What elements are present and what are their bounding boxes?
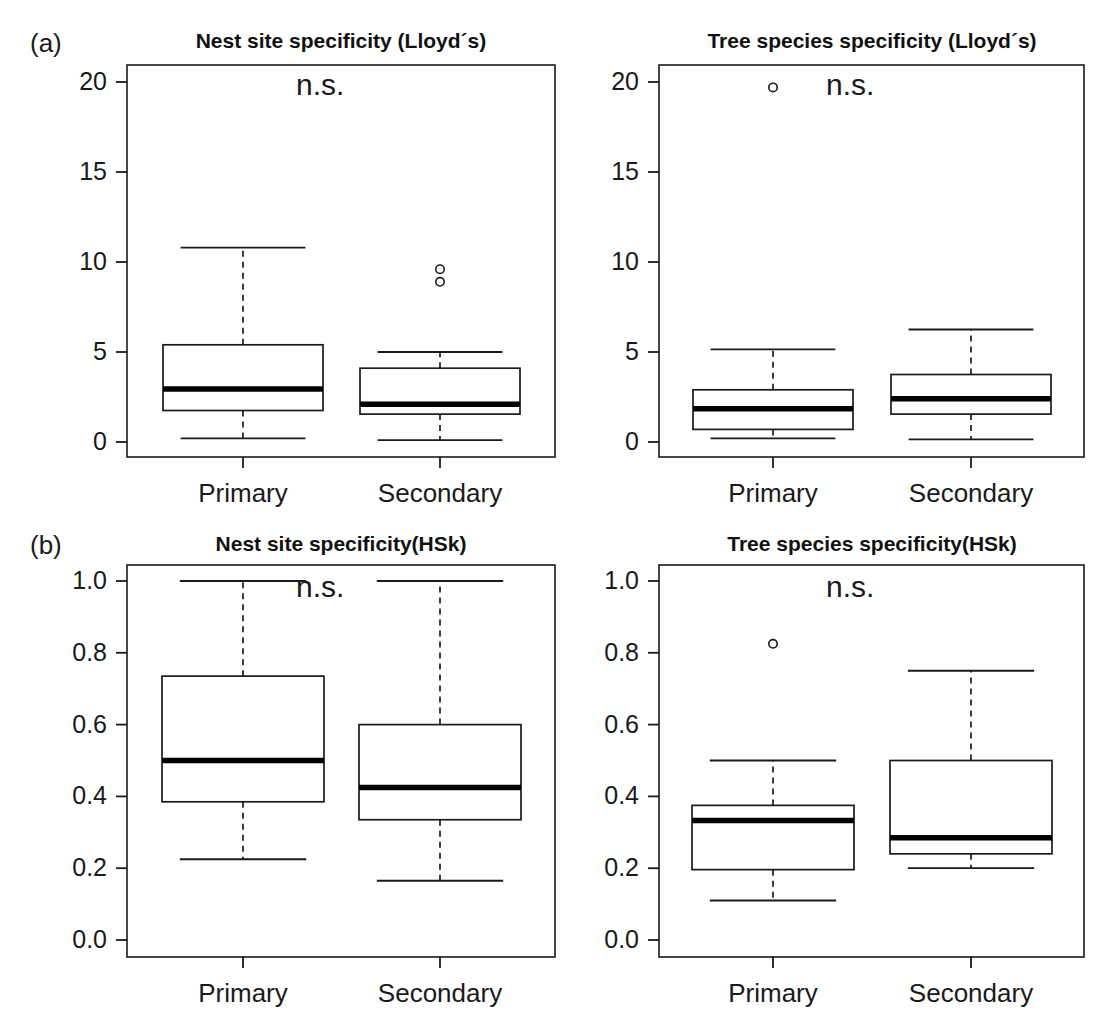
boxplot-figure: (a) (b) Nest site specificity (Lloyd´s) … xyxy=(0,0,1111,1030)
box-iqr xyxy=(692,805,854,869)
panel-b-right: Tree species specificity(HSk) n.s. 0.00.… xyxy=(0,515,1111,1030)
b-right-ytick-label: 1.0 xyxy=(604,566,639,594)
a-right-ytick-label: 10 xyxy=(611,247,639,275)
b-right-box-secondary xyxy=(890,671,1052,868)
outlier-point xyxy=(769,640,777,648)
a-right-ytick-label: 0 xyxy=(625,427,639,455)
b-right-xtick-label-primary: Primary xyxy=(728,978,818,1008)
b-right-xtick-label-secondary: Secondary xyxy=(909,978,1033,1008)
panel-a-right: Tree species specificity (Lloyd´s) n.s. … xyxy=(0,0,1111,515)
a-right-box-primary xyxy=(693,83,853,438)
a-right-xtick-label-primary: Primary xyxy=(728,478,818,508)
b-right-ytick-label: 0.0 xyxy=(604,925,639,953)
outlier-point xyxy=(769,83,777,91)
b-right-ytick-label: 0.2 xyxy=(604,853,639,881)
box-iqr xyxy=(891,375,1051,415)
b-right-box-primary xyxy=(692,640,854,901)
a-right-ytick-label: 15 xyxy=(611,157,639,185)
panel-a-right-plot: 05101520PrimarySecondary xyxy=(0,0,1111,515)
a-right-box-secondary xyxy=(891,330,1051,440)
a-right-ytick-label: 20 xyxy=(611,67,639,95)
panel-b-right-plot: 0.00.20.40.60.81.0PrimarySecondary xyxy=(0,515,1111,1030)
b-right-ytick-label: 0.6 xyxy=(604,710,639,738)
b-right-ytick-label: 0.8 xyxy=(604,638,639,666)
a-right-ytick-label: 5 xyxy=(625,337,639,365)
b-right-ytick-label: 0.4 xyxy=(604,781,639,809)
a-right-xtick-label-secondary: Secondary xyxy=(909,478,1033,508)
